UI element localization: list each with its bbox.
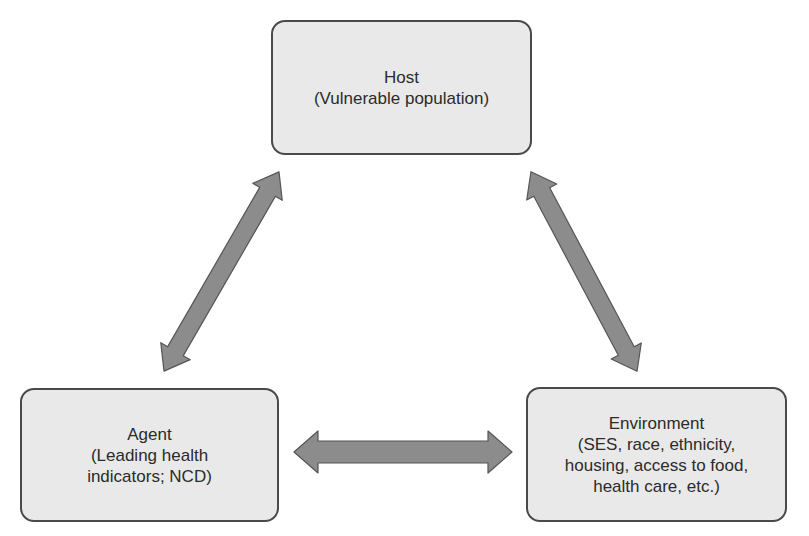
environment-description-line-2: housing, access to food,	[565, 455, 748, 476]
environment-description-line-1: (SES, race, ethnicity,	[578, 434, 735, 455]
agent-title: Agent	[127, 424, 171, 445]
host-node: Host (Vulnerable population)	[271, 20, 532, 155]
host-title: Host	[384, 67, 419, 88]
environment-title: Environment	[609, 413, 704, 434]
agent-description-line-2: indicators; NCD)	[87, 466, 212, 487]
arrow-agent-environment	[294, 431, 512, 473]
arrow-host-agent	[149, 163, 293, 379]
arrow-host-environment	[516, 164, 652, 380]
host-description: (Vulnerable population)	[314, 88, 489, 109]
agent-node: Agent (Leading health indicators; NCD)	[20, 388, 279, 522]
environment-node: Environment (SES, race, ethnicity, housi…	[526, 387, 787, 522]
agent-description-line-1: (Leading health	[91, 445, 208, 466]
environment-description-line-3: health care, etc.)	[593, 476, 720, 497]
